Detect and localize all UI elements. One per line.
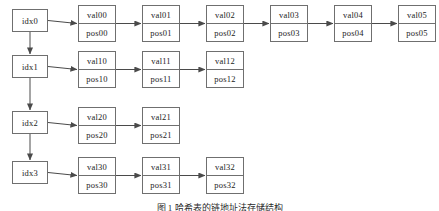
bucket-label: idx2	[22, 118, 38, 128]
list-node-val10[interactable]: val10pos10	[78, 51, 116, 88]
node-pos-cell: pos02	[207, 24, 243, 41]
node-pos-cell: pos01	[143, 24, 179, 41]
list-node-val20[interactable]: val20pos20	[78, 107, 116, 144]
node-pos-cell: pos10	[79, 70, 115, 87]
bucket-label: idx0	[22, 16, 38, 26]
node-pos-cell: pos20	[79, 126, 115, 143]
bucket-label: idx1	[22, 62, 38, 72]
node-pos-cell: pos04	[335, 24, 371, 41]
node-pos-cell: pos11	[143, 70, 179, 87]
node-value-cell: val12	[207, 52, 243, 70]
list-node-val02[interactable]: val02pos02	[206, 5, 244, 42]
node-pos-cell: pos30	[79, 176, 115, 193]
node-value-cell: val30	[79, 158, 115, 176]
node-value-cell: val32	[207, 158, 243, 176]
connector-group	[30, 21, 397, 176]
node-value-cell: val03	[271, 6, 307, 24]
node-value-cell: val20	[79, 108, 115, 126]
list-node-val03[interactable]: val03pos03	[270, 5, 308, 42]
bucket-label: idx3	[22, 168, 38, 178]
node-value-cell: val01	[143, 6, 179, 24]
node-value-cell: val31	[143, 158, 179, 176]
node-pos-cell: pos31	[143, 176, 179, 193]
list-node-val05[interactable]: val05pos05	[398, 5, 436, 42]
list-node-val00[interactable]: val00pos00	[78, 5, 116, 42]
list-node-val01[interactable]: val01pos01	[142, 5, 180, 42]
list-node-val12[interactable]: val12pos12	[206, 51, 244, 88]
node-pos-cell: pos32	[207, 176, 243, 193]
node-pos-cell: pos03	[271, 24, 307, 41]
list-node-val11[interactable]: val11pos11	[142, 51, 180, 88]
list-node-val21[interactable]: val21pos21	[142, 107, 180, 144]
list-node-val31[interactable]: val31pos31	[142, 157, 180, 194]
bucket-box-idx3[interactable]: idx3	[12, 161, 48, 184]
node-value-cell: val21	[143, 108, 179, 126]
node-pos-cell: pos21	[143, 126, 179, 143]
list-node-val04[interactable]: val04pos04	[334, 5, 372, 42]
bucket-box-idx1[interactable]: idx1	[12, 55, 48, 78]
node-value-cell: val04	[335, 6, 371, 24]
diagram-canvas: idx0idx1idx2idx3 val00pos00val01pos01val…	[0, 0, 439, 211]
node-pos-cell: pos00	[79, 24, 115, 41]
node-value-cell: val11	[143, 52, 179, 70]
bucket-box-idx0[interactable]: idx0	[12, 9, 48, 32]
node-pos-cell: pos05	[399, 24, 435, 41]
node-pos-cell: pos12	[207, 70, 243, 87]
node-value-cell: val00	[79, 6, 115, 24]
node-value-cell: val05	[399, 6, 435, 24]
figure-caption: 图 1 哈希表的链地址法存储结构	[0, 201, 439, 211]
list-node-val30[interactable]: val30pos30	[78, 157, 116, 194]
list-node-val32[interactable]: val32pos32	[206, 157, 244, 194]
node-value-cell: val10	[79, 52, 115, 70]
node-value-cell: val02	[207, 6, 243, 24]
bucket-box-idx2[interactable]: idx2	[12, 111, 48, 134]
